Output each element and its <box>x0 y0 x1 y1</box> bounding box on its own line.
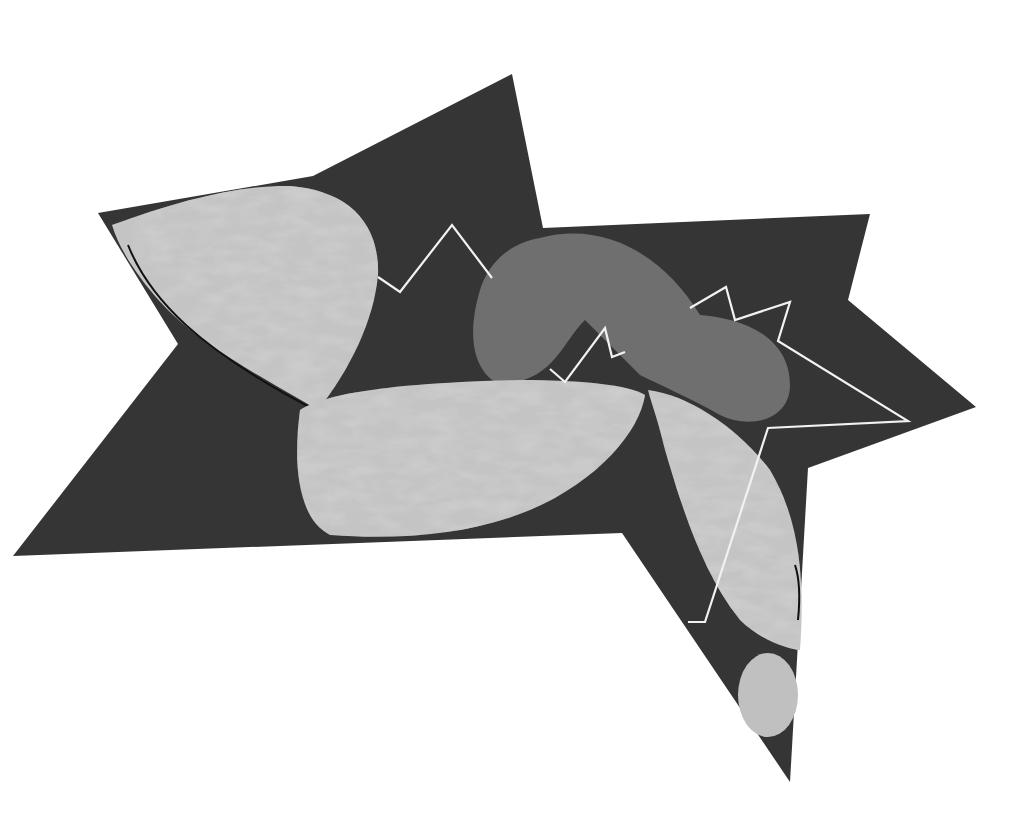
small-light-circle <box>738 653 798 737</box>
artwork-canvas <box>0 0 1012 839</box>
